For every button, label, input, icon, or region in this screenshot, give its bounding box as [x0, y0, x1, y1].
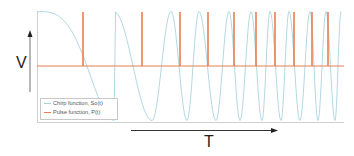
- chart-canvas: [0, 0, 354, 156]
- legend-item-pulse: Pulse function, P(t): [41, 108, 117, 117]
- x-axis-label: T: [204, 133, 214, 151]
- legend-item-chirp: Chirp function, So(t): [41, 99, 117, 108]
- x-axis-arrowhead: [271, 128, 278, 133]
- pulse-spike: [82, 12, 84, 66]
- pulse-spike: [293, 12, 295, 66]
- pulse-spike: [141, 12, 143, 66]
- pulse-spike: [274, 12, 276, 66]
- legend-swatch-chirp: [44, 103, 51, 104]
- pulse-spike: [233, 12, 235, 66]
- pulse-spike: [327, 12, 329, 66]
- legend-label-chirp: Chirp function, So(t): [53, 101, 103, 107]
- y-axis-arrowhead: [28, 30, 33, 37]
- y-axis-label: V: [16, 54, 27, 72]
- legend-swatch-pulse: [44, 112, 51, 113]
- legend-label-pulse: Pulse function, P(t): [53, 110, 100, 116]
- pulse-spike: [311, 12, 313, 66]
- pulse-spike: [207, 12, 209, 66]
- pulse-spike: [179, 12, 181, 66]
- pulse-spike: [255, 12, 257, 66]
- pulse-series: [37, 12, 344, 66]
- legend: Chirp function, So(t) Pulse function, P(…: [40, 98, 118, 120]
